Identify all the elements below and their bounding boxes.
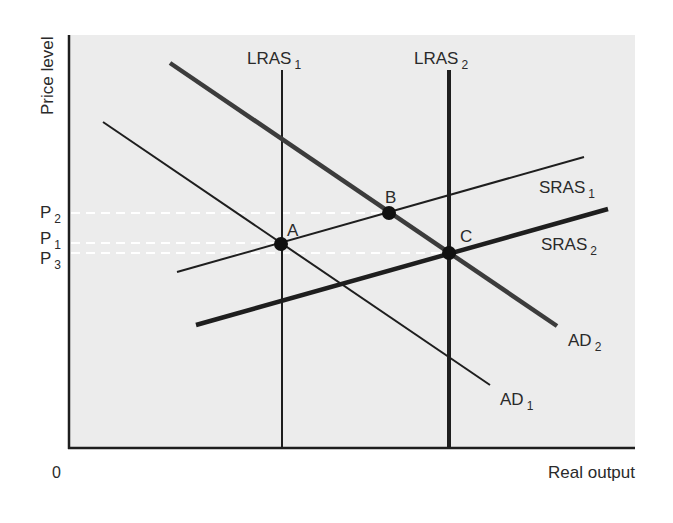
- point-b: [382, 206, 396, 220]
- x-axis-label: Real output: [548, 463, 635, 482]
- point-c: [442, 246, 456, 260]
- point-a-label: A: [287, 221, 299, 240]
- origin-label: 0: [52, 464, 61, 481]
- point-c-label: C: [460, 227, 472, 246]
- point-b-label: B: [385, 188, 396, 207]
- y-axis-label: Price level: [38, 37, 57, 115]
- price-level-labels: P2P1P3: [40, 203, 61, 272]
- point-a: [274, 237, 288, 251]
- price-label-p2: P2: [40, 203, 61, 226]
- price-label-p3: P3: [40, 249, 61, 272]
- as-ad-diagram: ABC LRAS1LRAS2AD1AD2SRAS1SRAS2 P2P1P3 Pr…: [0, 0, 673, 523]
